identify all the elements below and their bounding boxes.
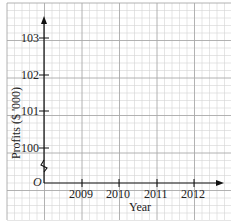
- x-axis-arrow-icon: [216, 180, 224, 186]
- x-axis-label: Year: [129, 201, 151, 213]
- y-axis-arrow-icon: [41, 16, 47, 24]
- y-tick-101: 101: [21, 105, 39, 117]
- y-tick-100: 100: [21, 142, 39, 154]
- x-tick-2009: 2009: [69, 188, 93, 200]
- x-tick-2010: 2010: [106, 188, 130, 200]
- x-tick-2012: 2012: [181, 188, 205, 200]
- y-tick-103: 103: [21, 32, 39, 44]
- origin-label: O: [33, 176, 42, 188]
- y-tick-102: 102: [21, 69, 39, 81]
- y-axis-label: Profits ($ '000): [10, 73, 22, 173]
- x-tick-2011: 2011: [144, 188, 168, 200]
- chart-container: 103 102 101 100 O 2009 2010 2011 2012 Ye…: [0, 0, 234, 223]
